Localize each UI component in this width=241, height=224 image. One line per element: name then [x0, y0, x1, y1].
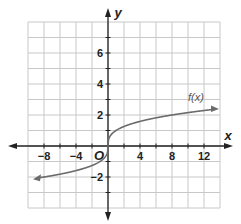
labels: −8−44812−2246Oxyf(x) [33, 5, 232, 183]
x-axis-label: x [223, 128, 232, 143]
x-tick-label: −8 [38, 150, 51, 162]
y-tick-label: 2 [97, 109, 103, 121]
y-tick-label: 4 [97, 78, 104, 90]
x-tick-label: 8 [169, 150, 175, 162]
origin-label: O [94, 148, 104, 163]
x-tick-label: −4 [70, 150, 83, 162]
x-tick-label: 4 [137, 150, 144, 162]
y-tick-label: 6 [97, 47, 103, 59]
right-arrow-icon [211, 106, 219, 113]
y-axis-label: y [113, 5, 122, 20]
x-tick-label: 12 [198, 150, 210, 162]
left-arrow-icon [33, 174, 41, 181]
f-curve [36, 109, 216, 178]
y-tick-label: −2 [90, 171, 103, 183]
function-graph: −8−44812−2246Oxyf(x) [0, 0, 241, 224]
grid [28, 22, 220, 208]
function-label: f(x) [188, 91, 204, 103]
